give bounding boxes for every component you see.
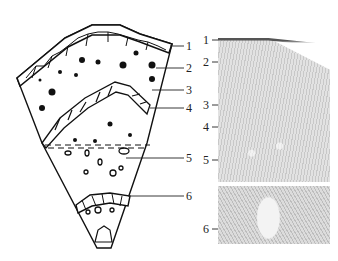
left-label-3: 3: [186, 84, 192, 96]
left-label-6: 6: [186, 190, 192, 202]
right-label-3: 3: [203, 99, 209, 111]
left-label-1: 1: [186, 40, 192, 52]
right-label-1: 1: [203, 34, 209, 46]
right-label-5: 5: [203, 154, 209, 166]
right-label-6: 6: [203, 223, 209, 235]
left-label-4: 4: [186, 102, 192, 114]
left-label-5: 5: [186, 152, 192, 164]
left-label-2: 2: [186, 62, 192, 74]
right-label-4: 4: [203, 121, 209, 133]
right-label-2: 2: [203, 56, 209, 68]
micrograph-bottom: [218, 186, 330, 244]
